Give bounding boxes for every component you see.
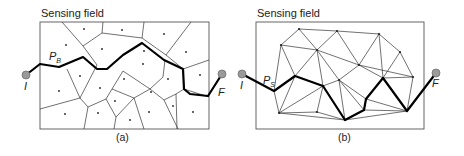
sensor-dot	[399, 51, 401, 53]
edge	[150, 89, 164, 100]
sensor-dot	[114, 100, 116, 102]
path-label-sub: S	[270, 81, 275, 88]
sensor-dot	[336, 30, 338, 32]
sensor-dot	[163, 33, 165, 35]
edge	[163, 60, 165, 77]
edge	[379, 34, 400, 52]
edge	[323, 80, 339, 86]
edge	[400, 52, 413, 77]
sensor-dot	[278, 112, 280, 114]
sensor-dot	[185, 51, 187, 53]
edge	[359, 34, 379, 65]
edge	[383, 77, 413, 78]
panel-a-title: Sensing field	[41, 7, 104, 19]
sensor-dot	[83, 28, 85, 30]
edge	[279, 112, 317, 113]
edge	[279, 86, 323, 113]
edge	[359, 65, 383, 78]
panel-a-voronoi: Sensing field I F PB (a)	[22, 7, 226, 143]
edge	[317, 86, 323, 112]
sensor-dot	[199, 74, 201, 76]
edge	[40, 98, 80, 109]
edge	[274, 91, 279, 113]
edge	[116, 98, 134, 117]
edge	[183, 60, 209, 69]
sensor-dot	[280, 44, 282, 46]
edge	[150, 77, 163, 89]
edge	[83, 33, 102, 46]
end-node-f	[218, 70, 226, 78]
path-label-sub: B	[56, 57, 61, 64]
sensor-dot	[143, 50, 145, 52]
edge	[176, 94, 177, 129]
sensor-dot	[97, 112, 99, 114]
end-node-label: F	[218, 86, 226, 98]
edge	[299, 29, 317, 50]
sensor-dot	[298, 28, 300, 30]
edge	[337, 31, 379, 34]
edge	[164, 100, 178, 129]
sensor-dot	[58, 90, 60, 92]
delaunay-edges	[274, 29, 413, 120]
panel-b-delaunay: Sensing field I F PS (b)	[238, 7, 440, 143]
edge	[106, 89, 112, 99]
sensor-dot	[123, 78, 125, 80]
edge	[281, 45, 295, 76]
end-node-f	[432, 69, 440, 77]
sensor-dot	[358, 64, 360, 66]
end-node-label: F	[432, 77, 440, 89]
edge	[379, 34, 383, 78]
sensor-dot	[172, 105, 174, 107]
edge	[317, 50, 323, 86]
path-label-pb: PB	[49, 50, 61, 64]
edge	[114, 117, 116, 129]
edge	[339, 65, 359, 80]
edge	[67, 69, 80, 98]
edge	[383, 52, 400, 78]
sensor-dot	[121, 29, 123, 31]
edge	[364, 110, 407, 111]
edge	[176, 89, 184, 94]
edge	[166, 22, 191, 55]
edge	[359, 65, 413, 77]
sensor-dot	[142, 63, 144, 65]
path-label-ps: PS	[263, 74, 275, 88]
edge	[295, 50, 317, 76]
edge	[102, 33, 142, 38]
edge	[317, 50, 339, 80]
panel-a-caption: (a)	[116, 131, 129, 143]
sensing-field-figure: Sensing field I F PB (a) Sensing field I…	[0, 0, 464, 156]
start-node-i	[22, 71, 30, 79]
edge	[80, 65, 97, 98]
edge	[84, 107, 88, 129]
sensor-dot	[316, 111, 318, 113]
start-node-i	[238, 70, 246, 78]
edge	[134, 98, 144, 129]
sensor-dot	[64, 113, 66, 115]
sensor-dot	[99, 87, 101, 89]
sensor-dot	[338, 79, 340, 81]
edge	[62, 22, 83, 46]
sensor-dot	[167, 78, 169, 80]
edge	[317, 31, 337, 50]
edge	[281, 29, 299, 45]
edge	[317, 50, 359, 65]
edge	[299, 29, 337, 31]
sensor-dot	[65, 44, 67, 46]
sensor-dot	[192, 111, 194, 113]
edge	[123, 71, 150, 89]
start-node-label: I	[240, 79, 243, 91]
sensor-dot	[129, 119, 131, 121]
edge	[279, 113, 345, 120]
edge	[337, 31, 359, 65]
sensor-dot	[79, 75, 81, 77]
edge	[142, 22, 144, 38]
sensor-dot	[148, 111, 150, 113]
edge	[102, 22, 103, 33]
sensor-dot	[150, 91, 152, 93]
edge	[112, 71, 123, 89]
edge	[80, 98, 88, 107]
sensor-dot	[101, 48, 103, 50]
sensor-dot	[316, 49, 318, 51]
edge	[88, 99, 106, 107]
